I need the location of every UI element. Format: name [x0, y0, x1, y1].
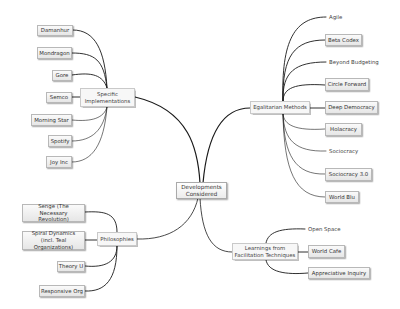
topic-semco[interactable]: Semco: [46, 92, 72, 103]
branch-egalitarian-methods[interactable]: Egalitarian Methods: [250, 101, 310, 114]
topic-joy-inc[interactable]: Joy Inc: [46, 156, 72, 168]
central-topic[interactable]: Developments Considered: [176, 182, 227, 199]
topic-circle-forward[interactable]: Circle Forward: [325, 78, 369, 91]
topic-spotify[interactable]: Spotify: [48, 135, 72, 147]
topic-spiral-dynamics[interactable]: Spiral Dynamics (incl. Teal Organization…: [22, 231, 85, 250]
topic-agile[interactable]: Agile: [329, 12, 369, 22]
topic-morning-star[interactable]: Morning Star: [31, 114, 72, 126]
branch-philosophies[interactable]: Philosophies: [97, 232, 137, 246]
topic-damanhur[interactable]: Damanhur: [37, 25, 73, 36]
topic-open-space[interactable]: Open Space: [308, 224, 353, 234]
topic-sociocracy-3[interactable]: Sociocracy 3.0: [325, 168, 372, 181]
topic-mondragon[interactable]: Mondragon: [37, 47, 72, 59]
topic-gore[interactable]: Gore: [52, 70, 72, 81]
topic-responsive-org[interactable]: Responsive Org: [39, 285, 85, 297]
topic-deep-democracy[interactable]: Deep Democracy: [325, 101, 378, 114]
topic-appreciative-inquiry[interactable]: Appreciative Inquiry: [308, 267, 370, 279]
topic-beyond-budgeting[interactable]: Beyond Budgeting: [329, 57, 389, 67]
topic-theory-u[interactable]: Theory U: [57, 261, 85, 272]
topic-senge[interactable]: Senge (The Necessary Revolution): [22, 204, 85, 222]
topic-beta-codex[interactable]: Beta Codex: [325, 34, 362, 46]
branch-learnings-facilitation[interactable]: Learnings from Facilitation Techniques: [232, 243, 298, 260]
topic-holacracy[interactable]: Holacracy: [325, 123, 362, 136]
branch-specific-implementations[interactable]: Specific Implementations: [80, 88, 135, 107]
topic-sociocracy[interactable]: Sociocracy: [329, 146, 374, 156]
topic-world-cafe[interactable]: World Cafe: [308, 245, 345, 258]
topic-world-blu[interactable]: World Blu: [325, 191, 359, 203]
